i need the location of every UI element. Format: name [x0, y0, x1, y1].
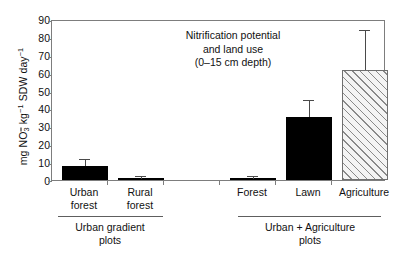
y-tick-label-20: 20 [38, 139, 50, 151]
chart-title: Nitrification potential and land use (0–… [148, 29, 318, 70]
y-tick-mark-70 [48, 57, 52, 58]
error-cap-agriculture [359, 30, 370, 31]
x-tick-mark-1 [107, 180, 108, 185]
error-bar-agriculture [365, 31, 366, 70]
nitrification-bar-chart: mg NO3 kg−1 SDW day−1 90 80 70 60 50 40 … [0, 0, 399, 261]
y-tick-mark-10 [48, 164, 52, 165]
group-label-urban-gradient-line-2: plots [75, 234, 144, 247]
group-label-urban-gradient-line-1: Urban gradient [75, 221, 144, 234]
x-label-agriculture: Agriculture [339, 186, 389, 199]
x-tick-mark-3 [219, 180, 220, 185]
x-tick-mark-2 [163, 180, 164, 185]
x-label-rural-forest-line-2: forest [127, 199, 153, 212]
chart-title-line-1: Nitrification potential [148, 29, 318, 43]
group-bracket-urban-gradient [58, 216, 163, 217]
y-tick-mark-30 [48, 128, 52, 129]
x-label-urban-forest-line-1: Urban [70, 186, 99, 199]
y-tick-label-30: 30 [38, 121, 50, 133]
error-cap-rural-forest [135, 176, 146, 177]
y-tick-mark-90 [48, 21, 52, 22]
x-label-rural-forest-line-1: Rural [127, 186, 153, 199]
y-tick-label-40: 40 [38, 103, 50, 115]
y-tick-label-70: 70 [38, 50, 50, 62]
y-tick-label-50: 50 [38, 86, 50, 98]
x-label-forest: Forest [237, 186, 267, 199]
chart-title-line-3: (0–15 cm depth) [148, 56, 318, 70]
error-cap-forest [247, 176, 258, 177]
y-tick-label-90: 90 [38, 14, 50, 26]
error-bar-urban-forest [85, 160, 86, 166]
x-label-rural-forest: Rural forest [127, 186, 153, 211]
error-cap-lawn [303, 100, 314, 101]
x-label-urban-forest: Urban forest [70, 186, 99, 211]
chart-title-line-2: and land use [148, 43, 318, 57]
error-bar-lawn [309, 101, 310, 117]
y-tick-mark-80 [48, 39, 52, 40]
y-tick-mark-50 [48, 93, 52, 94]
y-tick-label-60: 60 [38, 68, 50, 80]
group-label-urban-agriculture-line-1: Urban + Agriculture [265, 221, 355, 234]
group-label-urban-agriculture: Urban + Agriculture plots [265, 221, 355, 246]
bar-urban-forest [62, 166, 108, 180]
y-tick-label-80: 80 [38, 32, 50, 44]
y-axis-tick-labels: 90 80 70 60 50 40 30 20 10 0 [17, 0, 50, 200]
y-tick-mark-0 [48, 181, 52, 182]
x-label-lawn: Lawn [295, 186, 320, 199]
plot-area: Nitrification potential and land use (0–… [51, 20, 385, 181]
bar-agriculture [342, 70, 388, 180]
error-bar-rural-forest [141, 177, 142, 178]
group-label-urban-agriculture-line-2: plots [265, 234, 355, 247]
error-bar-forest [253, 177, 254, 178]
group-bracket-urban-agriculture [238, 216, 381, 217]
group-label-urban-gradient: Urban gradient plots [75, 221, 144, 246]
y-tick-mark-40 [48, 110, 52, 111]
y-tick-mark-20 [48, 146, 52, 147]
x-axis-category-labels: Urban forest Rural forest Forest Lawn Ag… [51, 186, 385, 220]
x-label-urban-forest-line-2: forest [70, 199, 99, 212]
x-tick-mark-5 [331, 180, 332, 185]
error-cap-urban-forest [79, 159, 90, 160]
bar-lawn [286, 117, 332, 180]
y-tick-mark-60 [48, 75, 52, 76]
x-tick-mark-4 [275, 180, 276, 185]
y-tick-label-10: 10 [38, 157, 50, 169]
